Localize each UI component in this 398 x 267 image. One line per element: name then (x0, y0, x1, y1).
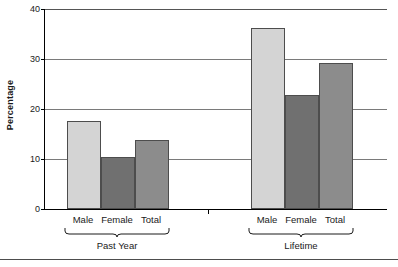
gridline-30 (45, 59, 387, 60)
group-brace-lifetime (248, 228, 354, 237)
gridline-0 (45, 209, 387, 210)
x-category-label-past-year-female: Female (101, 215, 133, 225)
y-tick-label-40: 40 (18, 5, 40, 14)
y-tick-mark-30 (41, 59, 45, 60)
gridline-40 (45, 9, 387, 10)
group-label-past-year: Past Year (97, 241, 138, 251)
x-category-label-past-year-total: Total (141, 215, 161, 225)
bar-past-year-female (101, 157, 135, 209)
y-tick-mark-10 (41, 159, 45, 160)
x-axis-tick-mid (208, 209, 209, 214)
bar-lifetime-female (285, 95, 319, 209)
y-tick-label-0: 0 (18, 205, 40, 214)
x-category-label-past-year-male: Male (73, 215, 94, 225)
x-category-label-lifetime-male: Male (257, 215, 278, 225)
group-brace-past-year (64, 228, 170, 237)
bar-lifetime-total (319, 63, 353, 209)
y-axis-tick-labels: 010203040 (14, 0, 40, 210)
y-tick-mark-20 (41, 109, 45, 110)
y-tick-mark-40 (41, 9, 45, 10)
x-category-label-lifetime-total: Total (325, 215, 345, 225)
bar-past-year-total (135, 140, 169, 210)
group-label-lifetime: Lifetime (284, 241, 317, 251)
bar-chart: Percentage 010203040 MaleFemaleTotalPast… (0, 0, 398, 267)
y-tick-label-20: 20 (18, 105, 40, 114)
y-tick-label-30: 30 (18, 55, 40, 64)
plot-area (44, 9, 386, 209)
y-tick-mark-0 (41, 209, 45, 210)
x-category-label-lifetime-female: Female (285, 215, 317, 225)
bottom-divider (0, 259, 398, 260)
bar-past-year-male (67, 121, 101, 209)
bar-lifetime-male (251, 28, 285, 209)
y-tick-label-10: 10 (18, 155, 40, 164)
